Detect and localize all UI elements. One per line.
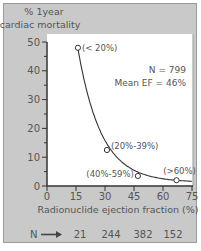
y-tick-label: 40 (27, 65, 40, 76)
arrow-right-icon (41, 231, 62, 238)
y-tick-label: 30 (27, 94, 40, 105)
n-row-label: N (30, 229, 37, 240)
data-point-marker (104, 147, 109, 152)
data-point-label: (< 20%) (82, 43, 117, 53)
plot-area (47, 34, 193, 186)
x-tick-label: 15 (70, 191, 83, 202)
data-point-marker (75, 45, 80, 50)
data-point-label: (>60%) (163, 166, 196, 176)
n-value: 21 (74, 229, 87, 240)
data-point-marker (135, 173, 140, 178)
y-tick-label: 20 (27, 123, 40, 134)
y-tick-label: 50 (27, 37, 40, 48)
n-value: 152 (163, 229, 182, 240)
n-value: 382 (133, 229, 152, 240)
data-point-marker (174, 178, 179, 183)
mortality-chart: % 1year cardiac mortality 01020304050015… (0, 0, 201, 251)
y-tick-label: 0 (34, 181, 40, 192)
y-axis-label-line1: % 1year (24, 6, 63, 17)
x-tick-label: 0 (44, 191, 50, 202)
annotation-n: N = 799 (149, 65, 186, 75)
annotation-mean-ef: Mean EF = 46% (114, 78, 186, 88)
x-tick-label: 75 (186, 191, 199, 202)
data-point-label: (20%-39%) (111, 141, 159, 151)
y-tick-label: 10 (27, 152, 40, 163)
x-tick-label: 30 (99, 191, 112, 202)
y-axis-label-line2: cardiac mortality (0, 19, 81, 30)
x-tick-label: 45 (128, 191, 141, 202)
n-value: 244 (101, 229, 120, 240)
data-point-label: (40%-59%) (86, 169, 134, 179)
x-tick-label: 60 (157, 191, 170, 202)
x-axis-label: Radionuclide ejection fraction (%) (38, 204, 199, 215)
n-row: N 21244382152 (30, 229, 183, 240)
